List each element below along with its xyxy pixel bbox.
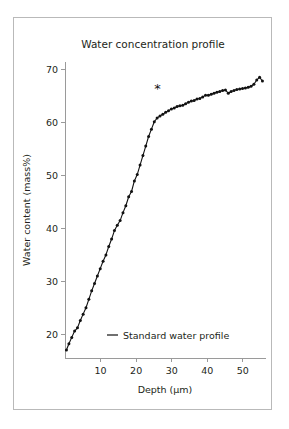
- series-data-point: [87, 298, 90, 301]
- asterisk-annotation: *: [154, 81, 161, 96]
- series-data-point: [213, 92, 216, 95]
- series-data-point: [187, 101, 190, 104]
- series-data-point: [113, 229, 116, 232]
- series-line-path: [66, 77, 262, 350]
- series-data-point: [153, 120, 156, 123]
- series-data-point: [252, 83, 255, 86]
- series-data-point: [190, 100, 193, 103]
- series-data-point: [130, 190, 133, 193]
- series-data-point: [119, 219, 122, 222]
- series-data-point: [241, 87, 244, 90]
- series-data-point: [207, 94, 210, 97]
- x-axis: 1020304050 Depth (µm): [65, 358, 266, 395]
- series-data-point: [184, 102, 187, 105]
- series-data-point: [84, 306, 87, 309]
- x-axis-title: Depth (µm): [138, 384, 193, 395]
- x-tick-label: 40: [201, 365, 213, 376]
- series-data-point: [255, 78, 258, 81]
- series-data-point: [133, 179, 136, 182]
- data-series-group: [65, 76, 264, 352]
- y-tick-label: 20: [46, 329, 58, 340]
- series-data-point: [150, 128, 153, 131]
- series-data-point: [201, 95, 204, 98]
- figure-border-frame: Water concentration profile 203040506070…: [13, 17, 272, 410]
- series-data-point: [79, 319, 82, 322]
- series-data-point: [121, 211, 124, 214]
- series-data-point: [230, 90, 233, 93]
- annotation-group: *: [154, 81, 161, 96]
- series-data-point: [178, 104, 181, 107]
- x-tick-label: 50: [237, 365, 249, 376]
- series-data-point: [218, 90, 221, 93]
- series-data-point: [181, 104, 184, 107]
- chart-legend: Standard water profile: [107, 330, 229, 341]
- y-tick-label: 30: [46, 276, 58, 287]
- y-axis-title: Water content (mass%): [21, 154, 32, 266]
- series-data-point: [232, 89, 235, 92]
- series-data-point: [247, 86, 250, 89]
- series-data-point: [250, 85, 253, 88]
- series-data-point: [102, 260, 105, 263]
- y-tick-label: 40: [46, 223, 58, 234]
- legend-label: Standard water profile: [123, 330, 229, 341]
- series-data-point: [235, 88, 238, 91]
- series-data-point: [67, 342, 70, 345]
- series-data-point: [170, 108, 173, 111]
- series-data-point: [261, 80, 264, 83]
- series-data-point: [198, 97, 201, 100]
- series-data-point: [156, 117, 159, 120]
- water-concentration-chart: Water concentration profile 203040506070…: [14, 18, 271, 409]
- series-data-point: [167, 109, 170, 112]
- series-data-point: [90, 289, 93, 292]
- series-data-point: [144, 145, 147, 148]
- series-data-point: [139, 164, 142, 167]
- y-tick-label: 60: [46, 117, 58, 128]
- series-data-point: [210, 93, 213, 96]
- series-data-point: [195, 98, 198, 101]
- series-data-point: [70, 336, 73, 339]
- series-data-point: [238, 87, 241, 90]
- x-axis-ticks: 1020304050: [95, 358, 249, 376]
- y-axis-ticks: 203040506070: [46, 64, 65, 339]
- series-data-point: [96, 275, 99, 278]
- series-data-point: [82, 313, 85, 316]
- series-data-point: [204, 94, 207, 97]
- x-tick-label: 20: [130, 365, 142, 376]
- series-data-point: [104, 253, 107, 256]
- series-data-point: [173, 106, 176, 109]
- figure-root: Water concentration profile 203040506070…: [0, 0, 289, 429]
- y-axis: 203040506070 Water content (mass%): [21, 62, 65, 358]
- series-data-point: [158, 114, 161, 117]
- x-tick-label: 30: [166, 365, 178, 376]
- series-data-point: [93, 282, 96, 285]
- series-data-point: [244, 86, 247, 89]
- series-data-point: [124, 204, 127, 207]
- series-data-point: [147, 135, 150, 138]
- y-tick-label: 70: [46, 64, 58, 75]
- series-data-point: [107, 245, 110, 248]
- series-data-point: [127, 195, 130, 198]
- series-data-point: [215, 91, 218, 94]
- series-data-point: [141, 154, 144, 157]
- y-tick-label: 50: [46, 170, 58, 181]
- series-data-point: [221, 89, 224, 92]
- series-data-point: [99, 267, 102, 270]
- series-data-point: [136, 173, 139, 176]
- series-data-point: [224, 89, 227, 92]
- series-data-point: [110, 238, 113, 241]
- series-data-point: [161, 113, 164, 116]
- series-data-point: [176, 105, 179, 108]
- series-data-point: [258, 76, 261, 79]
- chart-title: Water concentration profile: [81, 38, 225, 50]
- series-data-point: [76, 326, 79, 329]
- series-data-point: [227, 92, 230, 95]
- series-data-point: [116, 224, 119, 227]
- x-tick-label: 10: [95, 365, 107, 376]
- series-data-point: [164, 111, 167, 114]
- series-data-point: [73, 330, 76, 333]
- series-data-point: [65, 349, 68, 352]
- series-data-point: [193, 99, 196, 102]
